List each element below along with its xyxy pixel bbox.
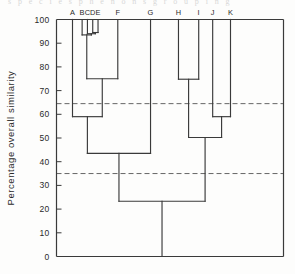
leaf-label-I: I [198,8,200,17]
leaf-label-G: G [148,8,154,17]
y-axis-title: Percentage overall similarity [5,71,16,206]
leaf-labels-group: ABCDEFGHIJK [70,8,233,17]
dendrogram-figure: 0102030405060708090100 ABCDEFGHIJK Perce… [0,0,295,274]
y-tick-label-50: 50 [39,133,49,143]
leaf-label-J: J [211,8,215,17]
y-tick-label-60: 60 [39,109,49,119]
leaf-label-E: E [95,8,100,17]
axis-group [57,20,284,257]
y-axis-title-group: Percentage overall similarity [5,71,16,206]
y-tick-label-90: 90 [39,38,49,48]
y-tick-label-40: 40 [39,157,49,167]
y-tick-label-80: 80 [39,62,49,72]
y-tick-label-70: 70 [39,86,49,96]
leaf-label-F: F [115,8,120,17]
leaf-label-H: H [176,8,182,17]
leaf-label-A: A [70,8,75,17]
leaf-label-K: K [228,8,233,17]
y-tick-label-10: 10 [39,228,49,238]
y-tick-labels-group: 0102030405060708090100 [34,15,49,262]
y-tick-label-0: 0 [44,252,49,262]
dendrogram-tree-group [73,20,231,257]
y-tick-label-100: 100 [34,15,49,25]
y-tick-label-30: 30 [39,180,49,190]
y-tick-label-20: 20 [39,204,49,214]
dendrogram-svg: 0102030405060708090100 ABCDEFGHIJK Perce… [0,0,295,274]
figure-page: s p e c i e s p h e n o n s g r o u p i … [0,0,295,274]
threshold-lines-group [57,104,284,174]
